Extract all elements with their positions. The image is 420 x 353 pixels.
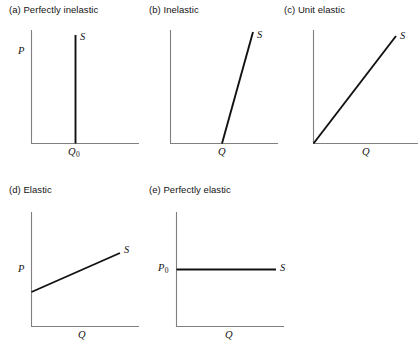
panel-c-supply-curve — [314, 36, 397, 144]
panel-b-inelastic: (b) Inelastic S Q — [140, 0, 285, 175]
panel-e-y-axis-label: P0 — [158, 262, 168, 273]
panel-c-x-axis-label: Q — [362, 146, 370, 157]
panel-a-caption: (a) Perfectly inelastic — [9, 4, 98, 15]
panel-e-caption: (e) Perfectly elastic — [149, 184, 231, 195]
panel-a-y-axis-label: P — [18, 45, 24, 56]
panel-c-caption: (c) Unit elastic — [284, 4, 345, 15]
panel-b-supply-curve — [222, 32, 253, 144]
panel-a-perfectly-inelastic: (a) Perfectly inelastic P Q0 S — [0, 0, 150, 175]
panel-c-unit-elastic: (c) Unit elastic S Q — [275, 0, 420, 175]
panel-d-curve-label: S — [124, 244, 129, 255]
panel-b-caption: (b) Inelastic — [149, 4, 199, 15]
panel-d-elastic: (d) Elastic P S Q — [0, 180, 160, 353]
panel-a-x-axis-label: Q0 — [68, 146, 79, 157]
panel-c-curve-label: S — [400, 30, 405, 41]
panel-d-caption: (d) Elastic — [9, 184, 52, 195]
panel-e-x-axis-label: Q — [225, 329, 233, 340]
panel-d-supply-curve — [32, 253, 121, 292]
panel-b-curve-label: S — [257, 29, 262, 40]
panel-d-y-axis-label: P — [18, 263, 24, 274]
elasticity-of-supply-figure: (a) Perfectly inelastic P Q0 S (b) Inela… — [0, 0, 420, 353]
panel-b-plot — [140, 0, 285, 175]
panel-c-plot — [275, 0, 420, 175]
panel-d-x-axis-label: Q — [78, 329, 86, 340]
panel-e-curve-label: S — [280, 262, 285, 273]
panel-a-curve-label: S — [80, 31, 85, 42]
panel-b-x-axis-label: Q — [218, 146, 226, 157]
panel-e-perfectly-elastic: (e) Perfectly elastic P0 S Q — [140, 180, 315, 353]
